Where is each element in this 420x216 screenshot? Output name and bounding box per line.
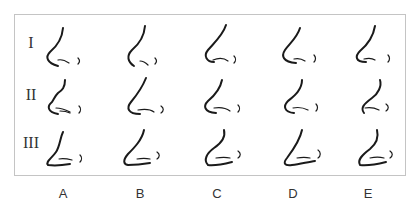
nose-II-C (205, 80, 239, 113)
nose-I-B (128, 26, 156, 66)
nose-III-B (124, 130, 159, 165)
nose-III-E (359, 130, 392, 165)
nose-II-A (49, 80, 81, 114)
nose-I-C (206, 25, 236, 63)
nose-III-A (47, 132, 81, 165)
nose-I-D (283, 28, 315, 63)
nose-I-E (357, 26, 390, 62)
nose-profiles-diagram (0, 0, 420, 216)
nose-III-D (285, 130, 321, 165)
nose-II-B (128, 78, 163, 114)
nose-II-E (362, 80, 388, 113)
nose-II-D (285, 80, 317, 113)
nose-I-A (47, 28, 79, 66)
nose-III-C (206, 130, 240, 165)
